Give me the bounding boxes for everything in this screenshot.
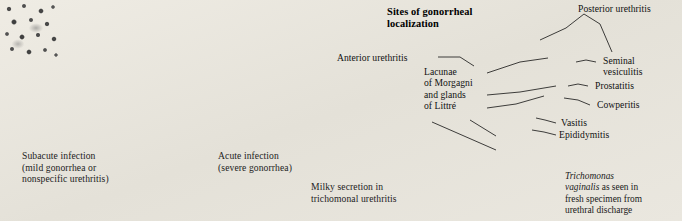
leader-glands-littre [487, 86, 556, 95]
leader-milky-box [432, 122, 496, 150]
label-anterior-urethritis: Anterior urethritis [337, 52, 408, 63]
leader-prostatitis [568, 84, 588, 86]
leader-lacunae-morgagni [487, 58, 548, 73]
label-vasitis: Vasitis [561, 117, 587, 128]
label-epididymitis: Epididymitis [559, 129, 609, 140]
leader-vasitis [536, 118, 556, 123]
leader-seminal-vesiculitis [576, 60, 596, 62]
label-lacunae-of-morgagni: Lacunae of Morgagni and glands of Littré [424, 66, 494, 112]
leader-posterior-urethritis-2 [584, 14, 612, 52]
leader-posterior-urethritis [540, 14, 584, 40]
diagram-title: Sites of gonorrheal localization [387, 6, 507, 30]
leader-anterior-urethritis [438, 57, 474, 66]
caption-micrograph: Trichomonas vaginalis as seen in fresh s… [565, 160, 682, 216]
leader-cowperitis [564, 98, 590, 105]
illustration-plate: Sites of gonorrheal localization Subacut… [0, 0, 682, 221]
label-seminal-vesiculitis: Seminal vesiculitis [603, 55, 663, 78]
caption-acute-infection: Acute infection (severe gonorrhea) [218, 150, 368, 173]
caption-subacute-infection: Subacute infection (mild gonorrhea or no… [22, 150, 192, 185]
leader-epididymitis [532, 130, 556, 135]
label-prostatitis: Prostatitis [595, 80, 634, 91]
leader-lacunae-lower [487, 96, 544, 108]
label-cowperitis: Cowperitis [597, 99, 640, 110]
caption-milky-secretion: Milky secretion in trichomonal urethriti… [311, 181, 421, 204]
leader-milky-box-2 [470, 120, 496, 136]
label-posterior-urethritis: Posterior urethritis [578, 3, 651, 14]
